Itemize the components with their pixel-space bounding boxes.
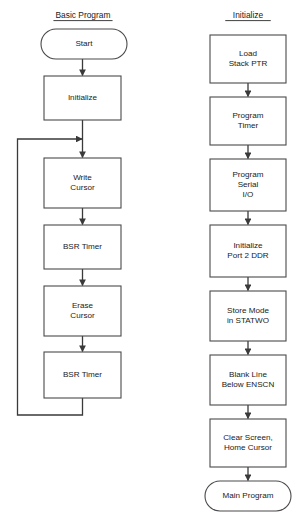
node-label-line: Write: [73, 173, 92, 182]
node-label-line: I/O: [243, 190, 254, 199]
node-label-line: Store Mode: [227, 306, 269, 315]
node-label-line: Timer: [238, 121, 259, 130]
node-write-cursor[interactable]: WriteCursor: [44, 158, 121, 208]
node-label-line: in STATWO: [227, 316, 269, 325]
node-label-line: Blank Line: [229, 370, 267, 379]
flow-column-initialize-routine: InitializeLoadStack PTRProgramTimerProgr…: [205, 10, 291, 511]
node-label-line: Start: [75, 39, 93, 48]
node-load-stack-ptr[interactable]: LoadStack PTR: [210, 35, 286, 83]
node-label-line: Program: [232, 111, 263, 120]
node-blank-line-enscn[interactable]: Blank LineBelow ENSCN: [210, 355, 286, 405]
node-label-line: Program: [232, 170, 263, 179]
node-bsr-timer-2[interactable]: BSR Timer: [44, 352, 121, 398]
node-label-line: Clear Screen,: [223, 433, 272, 442]
node-label-line: Port 2 DDR: [227, 251, 269, 260]
node-label-line: Cursor: [70, 311, 95, 320]
node-label-line: Stack PTR: [229, 59, 268, 68]
node-label-line: Initialize: [233, 241, 263, 250]
node-label-line: Main Program: [223, 491, 274, 500]
node-label-line: Initialize: [68, 93, 98, 102]
node-label-line: BSR Timer: [63, 242, 102, 251]
node-program-serial-io[interactable]: ProgramSerialI/O: [210, 159, 286, 211]
node-label-line: BSR Timer: [63, 370, 102, 379]
node-main-program[interactable]: Main Program: [205, 481, 291, 511]
node-label-line: Below ENSCN: [222, 380, 275, 389]
node-label-line: Load: [239, 49, 257, 58]
node-program-timer[interactable]: ProgramTimer: [210, 97, 286, 145]
node-label-line: Home Cursor: [224, 443, 272, 452]
node-bsr-timer-1[interactable]: BSR Timer: [44, 225, 121, 269]
node-store-mode-statwo[interactable]: Store Modein STATWO: [210, 291, 286, 341]
column-title-basic-program: Basic Program: [56, 10, 111, 20]
column-title-initialize-routine: Initialize: [233, 10, 264, 20]
flowchart-groups: Basic ProgramStartInitializeWriteCursorB…: [18, 10, 292, 511]
node-start[interactable]: Start: [41, 29, 127, 59]
flowchart-canvas: Basic ProgramStartInitializeWriteCursorB…: [0, 0, 304, 518]
flowchart-container: Basic ProgramStartInitializeWriteCursorB…: [0, 0, 304, 518]
node-clear-screen-home-cursor[interactable]: Clear Screen,Home Cursor: [210, 419, 286, 467]
node-label-line: Erase: [72, 301, 94, 310]
flow-column-basic-program: Basic ProgramStartInitializeWriteCursorB…: [18, 10, 128, 415]
node-label-line: Serial: [238, 180, 259, 189]
node-erase-cursor[interactable]: EraseCursor: [44, 286, 121, 336]
node-initialize[interactable]: Initialize: [44, 76, 121, 120]
node-initialize-port2-ddr[interactable]: InitializePort 2 DDR: [210, 225, 286, 277]
node-label-line: Cursor: [70, 183, 95, 192]
